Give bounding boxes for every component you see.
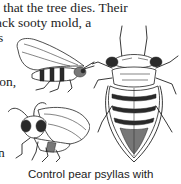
text-line-1: t that the tree dies. Their (0, 0, 128, 15)
adult-psylla-front-illustration (8, 100, 90, 162)
text-line-3: s (0, 30, 3, 45)
text-line-9: n (0, 145, 5, 160)
text-line-2: ack sooty mold, a (0, 15, 91, 30)
winged-psylla-illustration (10, 36, 95, 94)
figure-caption: Control pear psyllas with (28, 168, 153, 180)
nymph-psylla-illustration (92, 22, 181, 162)
